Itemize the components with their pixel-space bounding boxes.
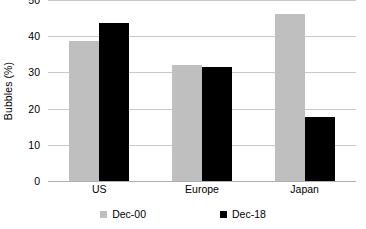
x-tick-label-us: US (92, 183, 107, 195)
legend-swatch-icon (100, 211, 107, 218)
bars-layer (48, 0, 356, 181)
y-axis-title: Bubbles (%) (0, 0, 16, 181)
bar (305, 117, 335, 181)
y-tick-label-50: 50 (28, 0, 40, 6)
y-axis-tick-labels: 01020304050 (16, 0, 44, 181)
bar (275, 14, 305, 181)
legend-item-dec-18[interactable]: Dec-18 (220, 208, 266, 220)
bar-chart: Bubbles (%) 01020304050 USEuropeJapan De… (0, 0, 366, 229)
y-tick-label-40: 40 (28, 30, 40, 42)
bar-group (151, 0, 254, 181)
legend-label: Dec-18 (232, 208, 266, 220)
bar (69, 41, 99, 181)
y-tick-label-30: 30 (28, 66, 40, 78)
y-tick-label-0: 0 (34, 175, 40, 187)
bar (172, 65, 202, 181)
plot-area (48, 0, 356, 181)
bar (202, 67, 232, 181)
y-tick-label-20: 20 (28, 103, 40, 115)
y-tick-label-10: 10 (28, 139, 40, 151)
y-axis-title-label: Bubbles (%) (2, 61, 14, 119)
legend-item-dec-00[interactable]: Dec-00 (100, 208, 146, 220)
x-axis-tick-labels: USEuropeJapan (48, 182, 356, 200)
legend-label: Dec-00 (112, 208, 146, 220)
legend-swatch-icon (220, 211, 227, 218)
bar (99, 23, 129, 181)
bar-group (253, 0, 356, 181)
x-tick-label-japan: Japan (290, 183, 319, 195)
bar-group (48, 0, 151, 181)
chart-legend: Dec-00Dec-18 (0, 205, 366, 223)
x-tick-label-europe: Europe (185, 183, 219, 195)
